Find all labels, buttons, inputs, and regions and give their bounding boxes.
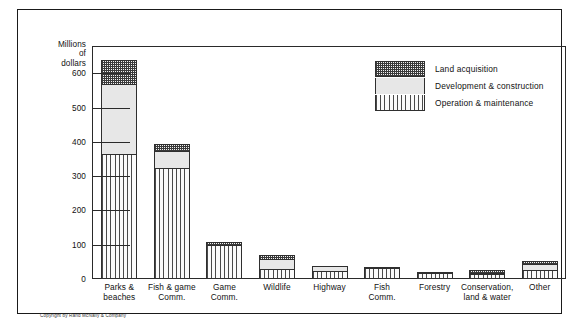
bar-segment-operation-maintenance[interactable]	[364, 268, 400, 279]
bar-group[interactable]	[154, 144, 190, 279]
figure-frame: Millions of dollars 0100200300400500600 …	[17, 9, 562, 314]
x-label-line: Comm.	[347, 292, 418, 302]
y-tick-label-200: 200	[26, 206, 86, 215]
y-tick-label-600: 600	[26, 69, 86, 78]
y-tick-mark-300	[92, 176, 130, 177]
legend-label-land-acquisition: Land acquisition	[435, 64, 498, 74]
y-tick-mark-600	[92, 73, 130, 74]
bar-segment-operation-maintenance[interactable]	[522, 270, 558, 279]
x-label-line: Other	[504, 282, 575, 292]
bar-segment-operation-maintenance[interactable]	[154, 168, 190, 279]
bar-segment-land-acquisition[interactable]	[154, 144, 190, 151]
legend-item-operation-maintenance: Operation & maintenance	[375, 94, 565, 111]
legend-swatch-development-icon	[375, 78, 425, 94]
legend-label-operation-maintenance: Operation & maintenance	[435, 98, 533, 108]
bar-group[interactable]	[206, 242, 242, 279]
x-label-other: Other	[504, 282, 575, 292]
x-axis-category-labels: Parks &beachesFish & gameComm.GameComm.W…	[93, 282, 566, 312]
copyright-notice: Copyright by Rand McNally & Company	[40, 313, 126, 318]
bar-segment-operation-maintenance[interactable]	[469, 274, 505, 279]
y-tick-mark-100	[92, 245, 130, 246]
y-axis-tick-labels: 0100200300400500600	[24, 46, 86, 279]
bar-group[interactable]	[364, 267, 400, 279]
bar-group[interactable]	[312, 266, 348, 279]
bar-segment-land-acquisition[interactable]	[101, 60, 137, 84]
y-tick-mark-500	[92, 108, 130, 109]
bar-segment-operation-maintenance[interactable]	[206, 245, 242, 279]
bar-segment-development-construction[interactable]	[101, 84, 137, 154]
x-label-line: land & water	[452, 292, 523, 302]
y-tick-label-400: 400	[26, 137, 86, 146]
legend-item-land-acquisition: Land acquisition	[375, 60, 565, 77]
legend-swatch-land-acquisition-icon	[375, 61, 425, 77]
x-label-line: Comm.	[189, 292, 260, 302]
chart-figure: Millions of dollars 0100200300400500600 …	[0, 0, 579, 327]
y-tick-label-100: 100	[26, 240, 86, 249]
bar-group[interactable]	[417, 272, 453, 279]
bar-group[interactable]	[101, 60, 137, 279]
bar-segment-development-construction[interactable]	[154, 151, 190, 168]
bar-group[interactable]	[259, 255, 295, 279]
bar-segment-operation-maintenance[interactable]	[312, 271, 348, 279]
y-tick-label-300: 300	[26, 172, 86, 181]
y-tick-label-0: 0	[26, 275, 86, 284]
bar-segment-development-construction[interactable]	[259, 259, 295, 269]
bar-group[interactable]	[469, 270, 505, 279]
legend-label-development-construction: Development & construction	[435, 81, 544, 91]
legend-item-development-construction: Development & construction	[375, 77, 565, 94]
y-tick-mark-400	[92, 142, 130, 143]
y-tick-mark-200	[92, 210, 130, 211]
bar-segment-operation-maintenance[interactable]	[259, 269, 295, 279]
bar-segment-operation-maintenance[interactable]	[417, 273, 453, 279]
y-tick-label-500: 500	[26, 103, 86, 112]
legend-swatch-operation-icon	[375, 95, 425, 111]
bar-group[interactable]	[522, 261, 558, 279]
bar-segment-operation-maintenance[interactable]	[101, 154, 137, 279]
chart-legend: Land acquisition Development & construct…	[375, 60, 565, 111]
